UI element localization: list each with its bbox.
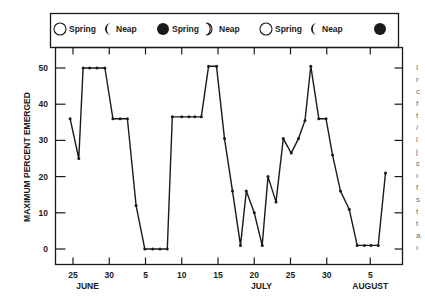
x-tick-label: 25 xyxy=(286,270,296,280)
plot-frame xyxy=(56,48,403,265)
waning-crescent-icon xyxy=(311,23,317,35)
data-point xyxy=(207,65,210,68)
data-point xyxy=(253,211,256,214)
data-point xyxy=(126,117,129,120)
series-layer xyxy=(69,65,387,251)
x-tick-label: 10 xyxy=(177,270,187,280)
data-point xyxy=(69,117,72,120)
margin-text-fragment: I xyxy=(416,62,425,73)
data-point xyxy=(95,67,98,70)
data-point xyxy=(223,137,226,140)
data-point xyxy=(275,200,278,203)
data-point xyxy=(304,119,307,122)
legend-item: Spring xyxy=(54,23,96,35)
new-moon-icon xyxy=(157,23,169,35)
data-point xyxy=(151,248,154,251)
data-point xyxy=(200,115,203,118)
y-tick-label: 40 xyxy=(39,99,49,109)
margin-text-fragment: / xyxy=(416,122,425,133)
data-point xyxy=(119,117,122,120)
legend-item: Spring xyxy=(260,23,302,35)
legend-label: Neap xyxy=(322,24,343,34)
y-tick-label: 0 xyxy=(43,244,48,254)
data-point xyxy=(188,115,191,118)
margin-text-fragment: f xyxy=(416,98,425,109)
x-tick-label: 15 xyxy=(213,270,223,280)
data-point xyxy=(88,67,91,70)
legend-label: Spring xyxy=(69,24,96,34)
data-point xyxy=(171,115,174,118)
margin-text-fragment: ı xyxy=(416,170,425,181)
legend-label: Spring xyxy=(172,24,199,34)
margin-text-fragment: f xyxy=(416,182,425,193)
margin-text-fragment: ɛ xyxy=(416,158,425,169)
legend-label: Neap xyxy=(219,24,240,34)
x-tick-label: 30 xyxy=(322,270,332,280)
data-point xyxy=(282,137,285,140)
data-point xyxy=(377,244,380,247)
x-tick-label: 20 xyxy=(250,270,260,280)
y-tick-label: 50 xyxy=(39,63,49,73)
x-tick-label: 30 xyxy=(105,270,115,280)
margin-text-fragment: s xyxy=(416,194,425,205)
data-point xyxy=(290,152,293,155)
waning-crescent-icon xyxy=(105,23,111,35)
data-point xyxy=(166,248,169,251)
legend-item: Spring xyxy=(157,23,199,35)
x-tick-label: 25 xyxy=(68,270,78,280)
margin-text-fragment: ı xyxy=(416,242,425,253)
full-moon-icon xyxy=(260,23,272,35)
data-point xyxy=(245,190,248,193)
waxing-crescent-icon xyxy=(206,23,212,35)
data-point xyxy=(331,153,334,156)
legend: SpringNeapSpringNeapSpringNeap xyxy=(54,23,386,35)
month-label: JUNE xyxy=(76,281,99,291)
y-tick-label: 10 xyxy=(39,208,49,218)
series-line xyxy=(70,66,385,249)
margin-text-fragment: l xyxy=(416,134,425,145)
data-point xyxy=(193,115,196,118)
margin-text-fragment: t xyxy=(416,110,425,121)
month-label: JULY xyxy=(251,281,272,291)
data-point xyxy=(339,190,342,193)
legend-item: Neap xyxy=(105,23,137,35)
data-point xyxy=(309,65,312,68)
data-point xyxy=(297,137,300,140)
legend-label: Spring xyxy=(275,24,302,34)
new-moon-icon xyxy=(374,23,386,35)
data-point xyxy=(325,117,328,120)
data-point xyxy=(135,204,138,207)
y-axis-label: MAXIMUM PERCENT EMERGED xyxy=(22,92,32,222)
data-point xyxy=(317,117,320,120)
data-point xyxy=(261,244,264,247)
legend-label: Neap xyxy=(116,24,137,34)
data-point xyxy=(356,244,359,247)
data-point xyxy=(103,67,106,70)
margin-text-fragment: c xyxy=(416,86,425,97)
margin-text-fragment: t xyxy=(416,218,425,229)
data-point xyxy=(111,117,114,120)
x-tick-label: 5 xyxy=(143,270,148,280)
x-tick-label: 5 xyxy=(368,270,373,280)
margin-text-fragment: r xyxy=(416,74,425,85)
y-tick-label: 30 xyxy=(39,135,49,145)
data-point xyxy=(231,190,234,193)
month-label: AUGUST xyxy=(352,281,389,291)
data-point xyxy=(215,65,218,68)
margin-text-fragment: a xyxy=(416,230,425,241)
data-point xyxy=(77,157,80,160)
data-point xyxy=(348,208,351,211)
margin-text-fragment: j xyxy=(416,146,425,157)
margin-text-fragment: t xyxy=(416,206,425,217)
data-point xyxy=(180,115,183,118)
data-point xyxy=(267,175,270,178)
data-point xyxy=(159,248,162,251)
y-tick-label: 20 xyxy=(39,172,49,182)
full-moon-icon xyxy=(54,23,66,35)
data-point xyxy=(369,244,372,247)
emergence-chart: SpringNeapSpringNeapSpringNeap 010203040… xyxy=(0,0,425,307)
data-point xyxy=(384,171,387,174)
legend-item: Neap xyxy=(206,23,240,35)
data-point xyxy=(82,67,85,70)
legend-item: Neap xyxy=(311,23,343,35)
